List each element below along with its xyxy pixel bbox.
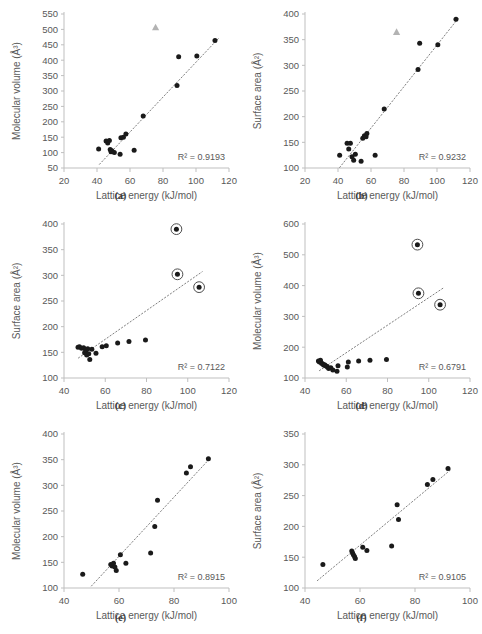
scatter-plot-e: 100150200250300350400406080100Lattice en…: [0, 420, 241, 634]
data-point: [359, 159, 364, 164]
x-tick-label: 100: [180, 385, 196, 396]
y-tick-label: 400: [42, 55, 58, 66]
x-tick-label: 60: [341, 385, 352, 396]
y-axis-title: Surface area (Å²): [10, 263, 22, 340]
data-point: [353, 556, 358, 561]
data-point: [389, 544, 394, 549]
chart-panel-b: 10015020025030035040020406080100120Latti…: [241, 0, 482, 210]
data-point: [112, 150, 117, 155]
data-point: [334, 369, 339, 374]
y-tick-label: 250: [42, 295, 58, 306]
chart-panel-a: 5010015020025030035040045050055020406080…: [0, 0, 241, 210]
data-point: [438, 302, 443, 307]
data-point: [148, 551, 153, 556]
x-tick-label: 100: [421, 385, 437, 396]
y-tick-label: 600: [283, 218, 299, 229]
x-tick-label: 40: [59, 385, 70, 396]
chart-panel-e: 100150200250300350400406080100Lattice en…: [0, 420, 241, 634]
trendline: [92, 459, 210, 586]
data-point: [364, 548, 369, 553]
y-tick-label: 350: [42, 454, 58, 465]
trendline: [340, 18, 459, 167]
data-point: [345, 364, 350, 369]
data-point: [415, 242, 420, 247]
y-tick-label: 200: [42, 116, 58, 127]
y-tick-label: 350: [283, 428, 299, 439]
y-tick-label: 50: [47, 162, 58, 173]
figure-panel-grid: 5010015020025030035040045050055020406080…: [0, 0, 482, 634]
data-point: [453, 17, 458, 22]
y-tick-label: 100: [42, 582, 58, 593]
panel-caption-a: (a): [0, 190, 241, 201]
x-tick-label: 80: [399, 175, 410, 186]
r-squared-label: R² = 0.7122: [178, 362, 225, 372]
y-tick-label: 500: [283, 249, 299, 260]
data-point: [118, 552, 123, 557]
x-tick-label: 60: [100, 385, 111, 396]
x-tick-label: 40: [333, 175, 344, 186]
data-point: [174, 227, 179, 232]
x-tick-label: 40: [92, 175, 103, 186]
x-tick-label: 40: [300, 595, 311, 606]
data-point: [395, 502, 400, 507]
data-point: [384, 357, 389, 362]
data-point: [194, 53, 199, 58]
y-axis-title: Molecular volume (Å³): [251, 252, 263, 350]
x-tick-label: 20: [300, 175, 311, 186]
y-tick-label: 150: [42, 557, 58, 568]
data-point: [152, 524, 157, 529]
x-tick-label: 120: [462, 385, 478, 396]
data-point: [346, 359, 351, 364]
y-tick-label: 300: [283, 459, 299, 470]
data-point: [435, 42, 440, 47]
r-squared-label: R² = 0.9105: [419, 572, 466, 582]
panel-caption-f: (f): [241, 612, 482, 623]
x-tick-label: 100: [429, 175, 445, 186]
data-point: [175, 83, 180, 88]
y-tick-label: 350: [283, 34, 299, 45]
panel-caption-b: (b): [241, 190, 482, 201]
data-point: [114, 568, 119, 573]
data-point: [360, 545, 365, 550]
x-tick-label: 60: [355, 595, 366, 606]
y-axis-title: Molecular volume (Å³): [10, 42, 22, 140]
data-point: [123, 132, 128, 137]
data-point: [86, 351, 91, 356]
y-axis-title: Surface area (Å²): [251, 473, 263, 550]
y-tick-label: 400: [283, 280, 299, 291]
trendline: [99, 39, 218, 165]
r-squared-label: R² = 0.9232: [419, 152, 466, 162]
data-point: [353, 152, 358, 157]
x-tick-label: 80: [169, 595, 180, 606]
data-point: [107, 138, 112, 143]
y-tick-label: 200: [42, 531, 58, 542]
data-point: [87, 357, 92, 362]
y-tick-label: 250: [283, 490, 299, 501]
scatter-plot-b: 10015020025030035040020406080100120Latti…: [241, 0, 482, 210]
data-point: [155, 498, 160, 503]
scatter-plot-a: 5010015020025030035040045050055020406080…: [0, 0, 241, 210]
x-tick-label: 100: [462, 595, 478, 606]
x-tick-label: 100: [221, 595, 237, 606]
y-tick-label: 100: [283, 162, 299, 173]
y-tick-label: 150: [42, 347, 58, 358]
data-point: [416, 67, 421, 72]
data-point: [373, 153, 378, 158]
data-point: [118, 152, 123, 157]
x-tick-label: 20: [59, 175, 70, 186]
data-point: [337, 153, 342, 158]
x-tick-label: 60: [366, 175, 377, 186]
y-tick-label: 150: [42, 132, 58, 143]
data-point: [123, 561, 128, 566]
data-point: [212, 38, 217, 43]
y-tick-label: 100: [283, 582, 299, 593]
trendline: [317, 470, 450, 581]
x-tick-label: 120: [462, 175, 478, 186]
panel-caption-e: (e): [0, 612, 241, 623]
data-point: [175, 272, 180, 277]
y-tick-label: 100: [283, 372, 299, 383]
y-tick-label: 500: [42, 24, 58, 35]
data-point: [206, 456, 211, 461]
y-tick-label: 400: [42, 218, 58, 229]
data-point: [364, 131, 369, 136]
